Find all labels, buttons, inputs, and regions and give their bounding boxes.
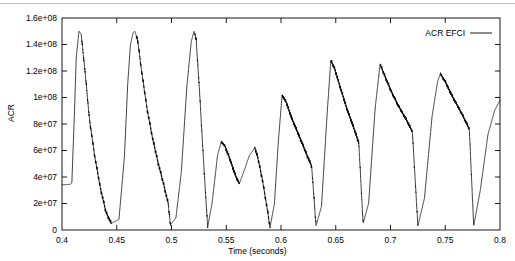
- y-tick-label: 0: [2, 226, 57, 235]
- y-tick-label: 1.2e+08: [2, 67, 57, 76]
- data-series-group: [62, 31, 500, 228]
- x-axis-ticks: [117, 18, 446, 230]
- legend-entry-label: ACR EFCI: [360, 28, 465, 38]
- y-tick-label: 1.6e+08: [2, 14, 57, 23]
- y-tick-label: 1e+08: [2, 93, 57, 102]
- y-tick-label: 1.4e+08: [2, 40, 57, 49]
- y-tick-label: 6e+07: [2, 146, 57, 155]
- x-tick-label: 0.45: [92, 236, 142, 245]
- y-tick-label: 8e+07: [2, 120, 57, 129]
- x-tick-label: 0.8: [475, 236, 515, 245]
- plot-border: [62, 18, 500, 230]
- x-axis-title: Time (seconds): [0, 246, 515, 256]
- plot-frame: [62, 18, 500, 230]
- y-tick-label: 4e+07: [2, 173, 57, 182]
- x-tick-label: 0.4: [37, 236, 87, 245]
- y-axis-ticks: [62, 45, 500, 204]
- x-tick-label: 0.55: [201, 236, 251, 245]
- chart-figure: ACR Time (seconds) ACR EFCI 0.40.450.50.…: [0, 0, 515, 261]
- x-tick-label: 0.6: [256, 236, 306, 245]
- x-tick-label: 0.75: [420, 236, 470, 245]
- x-tick-label: 0.5: [147, 236, 197, 245]
- x-tick-label: 0.65: [311, 236, 361, 245]
- plot-svg: [0, 0, 515, 261]
- series-acr-efci-line: [62, 31, 500, 228]
- y-tick-label: 2e+07: [2, 199, 57, 208]
- x-tick-label: 0.7: [366, 236, 416, 245]
